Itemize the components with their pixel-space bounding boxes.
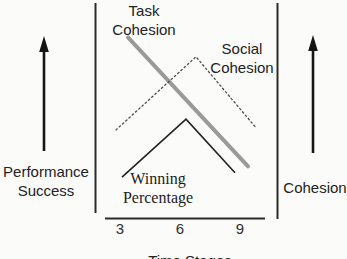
task-cohesion-label-line2: Cohesion [104, 20, 184, 39]
winning-percentage-label: Winning Percentage [112, 169, 204, 207]
left-axis-label-line1: Performance [1, 162, 91, 181]
social-cohesion-label: Social Cohesion [202, 39, 282, 77]
task-cohesion-label-line1: Task [104, 1, 184, 20]
performance-up-arrow [39, 36, 49, 151]
social-cohesion-label-line2: Cohesion [202, 58, 282, 77]
cohesion-up-arrow [308, 35, 318, 153]
right-axis-label: Cohesion [283, 178, 347, 197]
left-axis-label: Performance Success [1, 162, 91, 200]
left-axis-label-line2: Success [1, 181, 91, 200]
x-tick-9: 9 [230, 220, 250, 237]
x-tick-6: 6 [170, 220, 190, 237]
task-cohesion-label: Task Cohesion [104, 1, 184, 39]
winning-percentage-label-line1: Winning [112, 169, 204, 188]
x-axis-title: Time Stages [135, 251, 245, 259]
winning-percentage-label-line2: Percentage [112, 188, 204, 207]
x-tick-3: 3 [110, 220, 130, 237]
cohesion-performance-figure: Task Cohesion Social Cohesion Winning Pe… [0, 0, 347, 259]
social-cohesion-label-line1: Social [202, 39, 282, 58]
